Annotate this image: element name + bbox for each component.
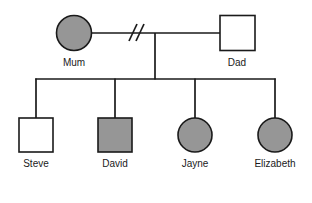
female-circle-mum[interactable]	[57, 16, 92, 51]
person-node-mum[interactable]: Mum	[57, 16, 92, 69]
pedigree-chart: Mum Dad Steve David Jayne	[0, 0, 312, 203]
person-label-elizabeth: Elizabeth	[254, 158, 295, 169]
male-square-dad[interactable]	[220, 16, 255, 51]
female-circle-elizabeth[interactable]	[258, 118, 292, 152]
male-square-steve[interactable]	[19, 118, 53, 152]
person-node-david[interactable]: David	[98, 118, 132, 169]
pedigree-canvas: Mum Dad Steve David Jayne	[0, 0, 312, 203]
male-square-david[interactable]	[98, 118, 132, 152]
person-node-dad[interactable]: Dad	[220, 16, 255, 69]
person-label-dad: Dad	[228, 57, 246, 68]
person-label-steve: Steve	[23, 158, 49, 169]
person-node-jayne[interactable]: Jayne	[178, 118, 212, 169]
person-label-mum: Mum	[63, 57, 85, 68]
female-circle-jayne[interactable]	[178, 118, 212, 152]
person-label-jayne: Jayne	[182, 158, 209, 169]
person-node-elizabeth[interactable]: Elizabeth	[254, 118, 295, 169]
person-node-steve[interactable]: Steve	[19, 118, 53, 169]
person-label-david: David	[102, 158, 128, 169]
generation-2-group: Steve David Jayne Elizabeth	[19, 118, 296, 169]
